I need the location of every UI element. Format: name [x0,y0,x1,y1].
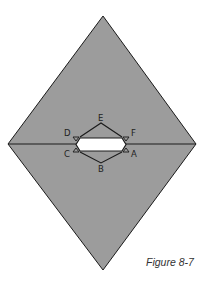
label-A: A [131,149,137,159]
label-C: C [64,149,70,159]
label-E: E [98,113,103,123]
figure-caption: Figure 8-7 [146,256,195,268]
label-F: F [131,128,136,138]
label-D: D [64,128,71,138]
figure-canvas: E D F C A B Figure 8-7 [0,0,212,289]
center-opening [76,138,126,151]
label-B: B [98,164,104,174]
